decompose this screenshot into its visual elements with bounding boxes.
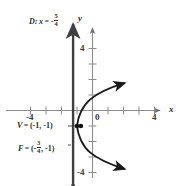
directrix-equals: = -	[44, 17, 53, 26]
focus-symbol: F	[18, 144, 23, 153]
parabola-lower-branch	[77, 126, 124, 169]
directrix-prefix: D:	[29, 17, 37, 26]
focus-label: F=(-34, -1)	[18, 140, 54, 154]
directrix-fraction-denominator: 4	[54, 21, 58, 28]
origin-label: 0	[95, 113, 100, 122]
coordinate-plane-svg	[0, 0, 181, 186]
vertex-coords: (-1, -1)	[30, 121, 53, 130]
directrix-fraction: 54	[54, 13, 58, 27]
directrix-variable: x	[39, 17, 43, 26]
directrix-equation-label: D:x= -54	[29, 13, 59, 27]
focus-point	[79, 124, 84, 129]
vertex-label: V=(-1, -1)	[17, 122, 53, 130]
x-tick-label-4: 4	[152, 113, 157, 122]
parabola-upper-branch	[77, 83, 124, 126]
y-tick-label-4: 4	[80, 44, 85, 53]
focus-equals: =	[25, 144, 30, 153]
vertex-equals: =	[24, 121, 29, 130]
focus-close: , -1)	[41, 144, 54, 153]
vertex-symbol: V	[17, 121, 22, 130]
focus-open-paren: (-	[31, 144, 36, 153]
x-axis-label: x	[169, 105, 174, 114]
parabola-graph-figure: D:x= -54 y x 0 -4 4 4 -4 V=(-1, -1) F=(-…	[0, 0, 181, 186]
y-tick-label-neg4: -4	[77, 168, 85, 177]
y-axis-label: y	[78, 14, 82, 23]
